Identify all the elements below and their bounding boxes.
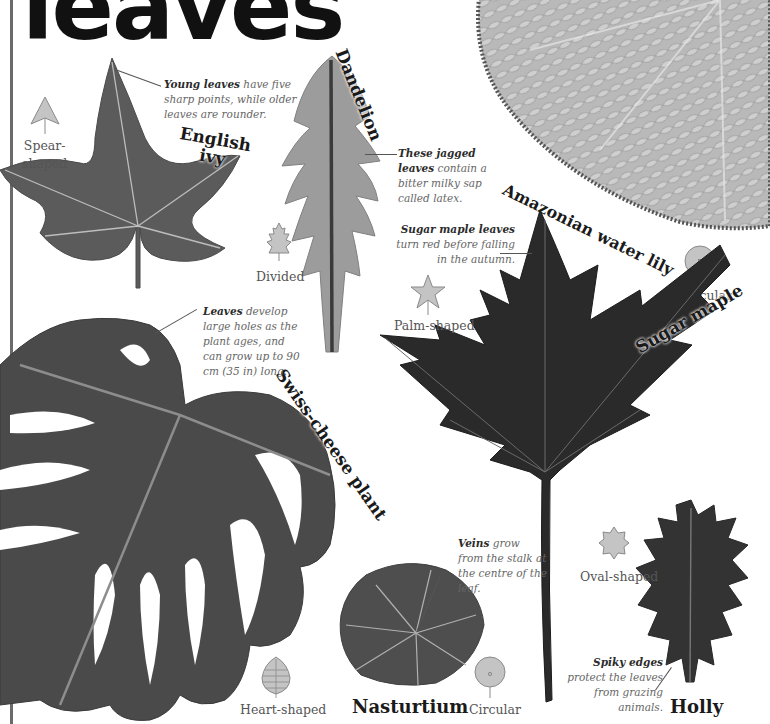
- oval-shape-label: Oval-shaped: [580, 568, 658, 586]
- circular-shape-label: Circular: [469, 701, 521, 719]
- holly-caption-text: protect the leaves from grazing animals.: [567, 671, 663, 713]
- sugar-maple-caption-text: turn red before falling in the autumn.: [396, 238, 515, 265]
- sugar-maple-leader-line: [500, 253, 532, 254]
- spear-shape-icon: [30, 96, 60, 136]
- circular-shape-icon: [473, 656, 507, 700]
- swiss-cheese-caption-bold: Leaves: [203, 305, 243, 317]
- nasturtium-name: Nasturtium: [352, 696, 468, 717]
- heart-shape-label: Heart-shaped: [240, 701, 326, 719]
- palm-shape-icon: [410, 274, 446, 316]
- dandelion-leader-line: [365, 154, 397, 155]
- oval-shape-icon: [598, 526, 630, 562]
- holly-name: Holly: [670, 696, 723, 717]
- spear-shape-label-line1: Spear-: [22, 137, 67, 155]
- swiss-cheese-caption: Leaves develop large holes as the plant …: [203, 304, 303, 379]
- dandelion-caption: These jagged leaves contain a bitter mil…: [398, 146, 508, 206]
- nasturtium-caption: Veins grow from the stalk at the centre …: [458, 536, 548, 596]
- divided-shape-icon: [266, 222, 292, 262]
- holly-caption-bold: Spiky edges: [593, 656, 663, 668]
- page-title: leaves: [22, 0, 343, 54]
- holly-caption: Spiky edges protect the leaves from graz…: [560, 655, 663, 715]
- divided-shape-label: Divided: [256, 268, 304, 286]
- sugar-maple-caption: Sugar maple leaves turn red before falli…: [395, 222, 515, 267]
- english-ivy-caption: Young leaves have five sharp points, whi…: [164, 77, 299, 122]
- heart-shape-icon: [260, 656, 292, 700]
- sugar-maple-caption-bold: Sugar maple leaves: [401, 223, 515, 235]
- spear-shape-label: Spear- shaped: [22, 137, 67, 173]
- english-ivy-caption-bold: Young leaves: [164, 78, 240, 90]
- palm-shape-label: Palm-shaped: [394, 317, 475, 335]
- nasturtium-caption-bold: Veins: [458, 537, 489, 549]
- spear-shape-label-line2: shaped: [22, 155, 67, 173]
